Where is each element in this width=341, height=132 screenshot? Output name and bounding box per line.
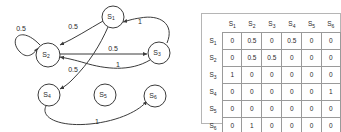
matrix-cell: 0: [242, 83, 262, 100]
transition-matrix-table: S1 S2 S3 S4 S5 S6 S1 0 0.5 0 0.5 0 0: [204, 16, 341, 132]
matrix-cell: 0: [223, 32, 242, 49]
matrix-row-header-s4: S4: [204, 83, 223, 100]
matrix-cell: 0: [321, 100, 340, 117]
matrix-cell: 0: [321, 49, 340, 66]
matrix-cell: 0: [262, 117, 282, 132]
node-s3[interactable]: S3: [148, 42, 170, 64]
matrix-cell: 0: [321, 66, 340, 83]
matrix-cell: 0.5: [242, 32, 262, 49]
matrix-cell: 0: [282, 66, 302, 83]
matrix-cell: 0: [302, 66, 321, 83]
matrix-cell: 0: [223, 100, 242, 117]
state-diagram-svg: S1 S2 S3 S4 S5 S6 0.5: [0, 0, 182, 132]
matrix-row-header-s6: S6: [204, 117, 223, 132]
matrix-cell: 0: [262, 100, 282, 117]
matrix-cell: 0: [302, 83, 321, 100]
edge-label-s2-s3: 0.5: [108, 45, 118, 52]
edge-label-s1-s4: 0.5: [68, 66, 78, 73]
edge-label-s4-s6: 1: [95, 118, 99, 125]
matrix-cell: 1: [242, 117, 262, 132]
edge-s3-s1: [123, 17, 169, 43]
matrix-cell: 0: [223, 117, 242, 132]
matrix-cell: 0: [302, 49, 321, 66]
node-s4[interactable]: S4: [38, 84, 60, 106]
edge-label-s3-s2: 1: [116, 61, 120, 68]
matrix-row-header-s5: S5: [204, 100, 223, 117]
matrix-row-header-s1: S1: [204, 32, 223, 49]
matrix-row: S1 0 0.5 0 0.5 0 0: [204, 32, 341, 49]
matrix-col-header-s1: S1: [223, 16, 242, 32]
matrix-header-row: S1 S2 S3 S4 S5 S6: [204, 16, 341, 32]
transition-matrix-panel: S1 S2 S3 S4 S5 S6 S1 0 0.5 0 0.5 0 0: [186, 0, 341, 132]
state-diagram-panel: S1 S2 S3 S4 S5 S6 0.5: [0, 0, 182, 132]
matrix-row: S2 0 0.5 0.5 0 0 0: [204, 49, 341, 66]
matrix-cell: 0: [282, 49, 302, 66]
node-s2[interactable]: S2: [36, 43, 60, 67]
node-s6[interactable]: S6: [144, 85, 166, 107]
node-s5[interactable]: S5: [94, 84, 116, 106]
matrix-cell: 0.5: [242, 49, 262, 66]
matrix-cell: 0: [282, 117, 302, 132]
matrix-row: S3 1 0 0 0 0 0: [204, 66, 341, 83]
matrix-col-header-s3: S3: [262, 16, 282, 32]
matrix-cell: 0: [302, 32, 321, 49]
matrix-row: S6 0 1 0 0 0 0: [204, 117, 341, 132]
matrix-row: S4 0 0 0 0 0 1: [204, 83, 341, 100]
matrix-cell: 0: [223, 83, 242, 100]
edge-label-s1-s2: 0.5: [68, 23, 78, 30]
matrix-cell: 0: [282, 83, 302, 100]
matrix-row-header-s2: S2: [204, 49, 223, 66]
matrix-cell: 1: [223, 66, 242, 83]
matrix-cell: 0: [282, 100, 302, 117]
matrix-col-header-s4: S4: [282, 16, 302, 32]
matrix-cell: 0: [302, 100, 321, 117]
edge-label-s2-s2: 0.5: [16, 25, 26, 32]
matrix-cell: 0.5: [262, 49, 282, 66]
figure-root: S1 S2 S3 S4 S5 S6 0.5: [0, 0, 341, 132]
matrix-cell: 0: [262, 66, 282, 83]
matrix-corner-cell: [204, 16, 223, 32]
matrix-cell: 0: [321, 32, 340, 49]
matrix-cell: 0: [242, 100, 262, 117]
matrix-cell: 0: [302, 117, 321, 132]
matrix-cell: 0.5: [282, 32, 302, 49]
matrix-cell: 0: [262, 83, 282, 100]
matrix-cell: 0: [262, 32, 282, 49]
matrix-col-header-s5: S5: [302, 16, 321, 32]
edge-s1-s2: [60, 21, 103, 45]
matrix-col-header-s2: S2: [242, 16, 262, 32]
edge-label-s3-s1: 1: [138, 18, 142, 25]
matrix-cell: 0: [321, 117, 340, 132]
matrix-cell: 1: [321, 83, 340, 100]
matrix-row-header-s3: S3: [204, 66, 223, 83]
matrix-col-header-s6: S6: [321, 16, 340, 32]
node-s1[interactable]: S1: [102, 6, 124, 28]
matrix-row: S5 0 0 0 0 0 0: [204, 100, 341, 117]
matrix-cell: 0: [242, 66, 262, 83]
matrix-cell: 0: [223, 49, 242, 66]
